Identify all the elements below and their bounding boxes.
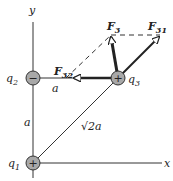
svg-text:+: +: [28, 157, 37, 170]
q1-label: q1: [8, 157, 20, 172]
q3-label: q3: [128, 73, 140, 88]
charge-q3: +: [111, 71, 125, 85]
distance-diagonal: √2a: [81, 120, 102, 133]
f31-arrow: [122, 37, 159, 74]
distance-a-vertical: a: [24, 116, 31, 129]
svg-text:+: +: [113, 72, 122, 85]
charge-q1: +: [26, 156, 40, 170]
f32-label: F32: [53, 65, 73, 80]
distance-a-horizontal: a: [52, 82, 59, 95]
charge-q2: −: [26, 71, 40, 85]
svg-text:−: −: [28, 72, 37, 85]
f31-label: F31: [147, 20, 167, 35]
f3-label: F3: [106, 20, 121, 35]
f3-arrow: [111, 37, 117, 72]
q2-label: q2: [6, 72, 18, 87]
x-axis-label: x: [164, 157, 171, 170]
diagram-canvas: − + + y x q2 q3 q1 a a √2a F32 F3 F31: [0, 0, 173, 181]
force-diagram: − + + y x q2 q3 q1 a a √2a F32 F3 F31: [0, 0, 173, 181]
diagonal-line: [33, 78, 118, 163]
y-axis-label: y: [28, 4, 36, 17]
